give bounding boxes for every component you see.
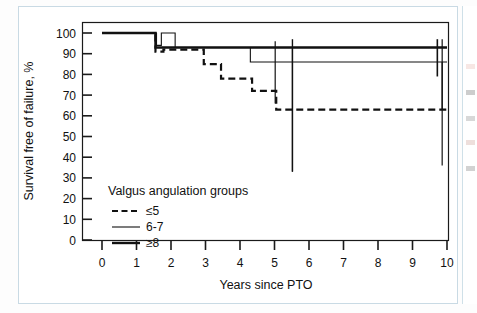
y-tick-label: 20	[63, 192, 77, 206]
legend-item-label: 6-7	[146, 220, 164, 234]
x-axis-label: Years since PTO	[219, 278, 312, 292]
y-tick-label: 30	[63, 171, 77, 185]
x-tick-label: 6	[306, 256, 313, 270]
legend-items: ≤56-7≥8	[112, 204, 164, 250]
x-tick-label: 3	[202, 256, 209, 270]
y-tick-label: 0	[69, 234, 76, 248]
survival-curve	[102, 33, 447, 47]
y-tick-label: 50	[63, 130, 77, 144]
x-tick-label: 4	[237, 256, 244, 270]
x-tick-label: 1	[133, 256, 140, 270]
survival-curves	[102, 33, 447, 110]
legend-title: Valgus angulation groups	[108, 184, 248, 198]
y-axis-label: Survival free of failure, %	[22, 62, 36, 201]
y-tick-label: 80	[63, 68, 77, 82]
y-axis: 0102030405060708090100	[56, 27, 92, 248]
legend-item-label: ≥8	[146, 236, 160, 250]
censor-marks	[275, 39, 442, 171]
y-tick-label: 40	[63, 151, 77, 165]
x-tick-label: 5	[271, 256, 278, 270]
x-tick-label: 2	[168, 256, 175, 270]
y-tick-label: 10	[63, 213, 77, 227]
y-tick-label: 100	[56, 27, 76, 41]
x-tick-label: 8	[375, 256, 382, 270]
survival-curve	[102, 33, 447, 110]
legend-item-label: ≤5	[146, 204, 160, 218]
y-tick-label: 90	[63, 47, 77, 61]
x-tick-label: 7	[340, 256, 347, 270]
y-tick-label: 70	[63, 89, 77, 103]
plot-frame	[83, 23, 449, 241]
y-tick-label: 60	[63, 109, 77, 123]
survival-chart: 0102030405060708090100 012345678910 Surv…	[0, 0, 477, 313]
x-tick-label: 0	[99, 256, 106, 270]
x-tick-label: 10	[440, 256, 454, 270]
figure-container: 0102030405060708090100 012345678910 Surv…	[0, 0, 477, 313]
x-tick-label: 9	[409, 256, 416, 270]
